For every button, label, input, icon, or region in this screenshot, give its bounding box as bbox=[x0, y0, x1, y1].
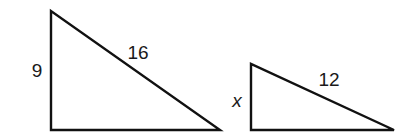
small-triangle-leg-label: x bbox=[231, 90, 243, 111]
large-triangle-leg-label: 9 bbox=[32, 60, 43, 81]
large-triangle-outline bbox=[51, 11, 220, 130]
small-triangle: x 12 bbox=[231, 64, 394, 130]
similar-triangles-diagram: 9 16 x 12 bbox=[0, 0, 415, 140]
small-triangle-hypotenuse-label: 12 bbox=[318, 69, 339, 90]
large-triangle-hypotenuse-label: 16 bbox=[127, 42, 148, 63]
large-triangle: 9 16 bbox=[32, 11, 220, 130]
